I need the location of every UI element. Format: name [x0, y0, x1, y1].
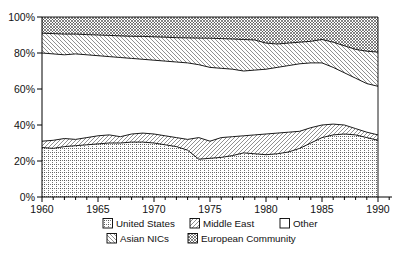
- x-tick-label: 1960: [30, 203, 54, 215]
- legend-item-asian-nics: Asian NICs: [107, 233, 169, 244]
- y-tick-label: 0%: [20, 191, 35, 203]
- x-tick-label: 1990: [366, 203, 390, 215]
- legend-item-european-community: European Community: [188, 233, 296, 244]
- x-tick-label: 1970: [142, 203, 166, 215]
- legend-swatch-united-states: [103, 219, 113, 229]
- y-tick-label: 80%: [14, 47, 35, 59]
- area-bands: [42, 17, 378, 197]
- chart-legend: United StatesMiddle EastOtherAsian NICsE…: [103, 218, 318, 244]
- x-tick-label: 1965: [86, 203, 110, 215]
- legend-swatch-other: [280, 219, 290, 229]
- legend-swatch-asian-nics: [107, 234, 117, 244]
- stacked-area-chart-figure: 1960196519701975198019851990 0%20%40%60%…: [0, 0, 401, 257]
- legend-label-other: Other: [293, 218, 318, 229]
- y-tick-label: 20%: [14, 155, 35, 167]
- legend-item-united-states: United States: [103, 218, 175, 229]
- y-tick-label: 60%: [14, 83, 35, 95]
- x-tick-label: 1985: [310, 203, 334, 215]
- x-tick-label: 1980: [254, 203, 278, 215]
- legend-label-united-states: United States: [116, 218, 175, 229]
- chart-canvas: 1960196519701975198019851990 0%20%40%60%…: [0, 0, 401, 257]
- legend-label-european-community: European Community: [201, 233, 296, 244]
- legend-item-middle-east: Middle East: [190, 218, 254, 229]
- x-tick-label: 1975: [198, 203, 222, 215]
- legend-item-other: Other: [280, 218, 318, 229]
- legend-label-middle-east: Middle East: [203, 218, 254, 229]
- y-tick-label: 40%: [14, 119, 35, 131]
- legend-swatch-middle-east: [190, 219, 200, 229]
- legend-label-asian-nics: Asian NICs: [120, 233, 169, 244]
- y-tick-label: 100%: [8, 11, 35, 23]
- legend-swatch-european-community: [188, 234, 198, 244]
- y-axis-ticks: 0%20%40%60%80%100%: [8, 11, 42, 203]
- x-axis-ticks: 1960196519701975198019851990: [30, 197, 390, 215]
